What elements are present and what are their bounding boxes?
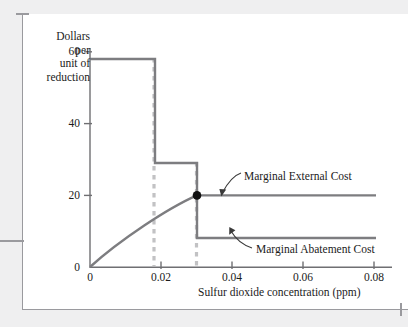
y-tick-label-20: 20 [60,189,80,201]
y-axis-caption: Dollars per unit of reduction [16,30,90,84]
marginal-external-cost-step [90,59,376,238]
x-tick-label-008: 0.08 [354,271,394,283]
x-tick-label-002: 0.02 [141,271,181,283]
y-axis-caption-line-1: Dollars [16,30,90,44]
y-tick-label-60: 60 [60,45,80,57]
y-tick-label-40: 40 [60,117,80,129]
mac-leader-line [231,231,252,248]
annotation-marginal-external-cost: Marginal External Cost [244,170,352,182]
x-tick-label-006: 0.06 [283,271,323,283]
x-tick-label-004: 0.04 [212,271,252,283]
x-tick-label-0: 0 [70,271,110,283]
annotation-marginal-abatement-cost: Marginal Abatement Cost [256,243,375,255]
y-axis-caption-line-3: unit of [16,57,90,71]
equilibrium-point-marker [193,191,202,200]
y-axis-caption-line-4: reduction [16,71,90,85]
figure-stage: Dollars per unit of reduction 60 40 20 0… [0,0,408,327]
x-axis-title: Sulfur dioxide concentration (ppm) [198,286,361,298]
